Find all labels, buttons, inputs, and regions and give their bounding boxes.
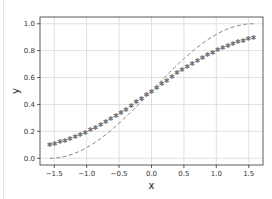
chart: −1.5−1.0−0.50.00.51.01.50.00.20.40.60.81…: [0, 0, 272, 199]
y-tick-label: 0.4: [24, 101, 36, 109]
y-tick-label: 0.0: [24, 155, 35, 163]
x-tick-label: 1.5: [243, 170, 254, 178]
y-tick-label: 1.0: [24, 20, 35, 28]
star-marker: ✱: [250, 34, 256, 42]
x-tick-label: 0.0: [146, 170, 157, 178]
x-tick-label: −1.5: [46, 170, 63, 178]
y-axis-label: y: [10, 88, 21, 94]
y-tick-label: 0.2: [24, 128, 35, 136]
y-tick-label: 0.6: [24, 74, 36, 82]
y-tick-label: 0.8: [24, 47, 35, 55]
x-tick-label: 0.5: [178, 170, 189, 178]
x-axis-label: x: [149, 180, 155, 191]
x-tick-label: −0.5: [111, 170, 128, 178]
x-tick-label: 1.0: [211, 170, 222, 178]
x-tick-label: −1.0: [78, 170, 95, 178]
